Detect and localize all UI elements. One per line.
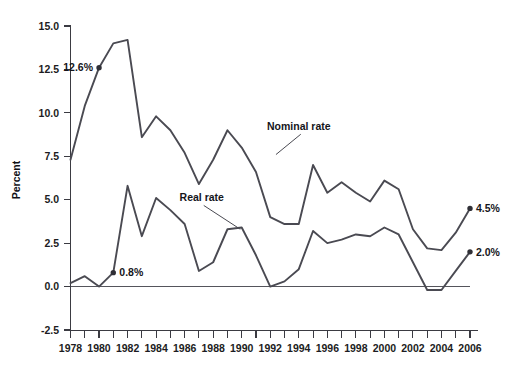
x-tick-label: 1992 bbox=[259, 342, 283, 354]
data-point-marker bbox=[96, 65, 101, 70]
interest-rate-chart: Percent 15.012.510.07.55.02.50.0-2.5 197… bbox=[0, 0, 507, 369]
y-tick-label: 10.0 bbox=[39, 107, 60, 119]
data-point-label: 4.5% bbox=[476, 202, 501, 214]
y-tick-label: 2.5 bbox=[44, 237, 59, 249]
x-tick-label: 1982 bbox=[116, 342, 140, 354]
y-tick-label: 5.0 bbox=[44, 193, 59, 205]
x-tick-label: 2004 bbox=[430, 342, 454, 354]
x-tick-label: 2002 bbox=[401, 342, 425, 354]
chart-background bbox=[0, 0, 507, 369]
data-point-marker bbox=[111, 270, 116, 275]
y-tick-label: 12.5 bbox=[39, 63, 60, 75]
chart-canvas: Percent 15.012.510.07.55.02.50.0-2.5 197… bbox=[0, 0, 507, 369]
data-point-marker bbox=[467, 206, 472, 211]
x-tick-label: 1998 bbox=[344, 342, 368, 354]
y-tick-label: -2.5 bbox=[41, 324, 59, 336]
x-tick-label: 1990 bbox=[230, 342, 254, 354]
y-tick-label: 7.5 bbox=[44, 150, 59, 162]
data-point-label: 2.0% bbox=[476, 246, 501, 258]
y-tick-label: 0.0 bbox=[44, 280, 59, 292]
x-tick-label: 1996 bbox=[316, 342, 340, 354]
x-tick-label: 2000 bbox=[373, 342, 397, 354]
y-tick-label: 15.0 bbox=[39, 20, 60, 32]
x-tick-label: 1980 bbox=[87, 342, 111, 354]
x-tick-label: 1986 bbox=[173, 342, 197, 354]
x-tick-label: 1978 bbox=[59, 342, 83, 354]
x-tick-label: 2006 bbox=[458, 342, 482, 354]
x-axis-tick-labels: 1978198019821984198619881990199219941996… bbox=[59, 342, 482, 354]
x-tick-label: 1984 bbox=[144, 342, 168, 354]
x-tick-label: 1994 bbox=[287, 342, 311, 354]
data-point-label: 0.8% bbox=[119, 266, 144, 278]
data-point-marker bbox=[467, 249, 472, 254]
data-point-label: 12.6% bbox=[63, 61, 93, 73]
series-annotation-label: Nominal rate bbox=[267, 120, 331, 132]
series-annotation-label: Real rate bbox=[180, 191, 225, 203]
y-axis-title: Percent bbox=[10, 160, 22, 199]
x-tick-label: 1988 bbox=[201, 342, 225, 354]
